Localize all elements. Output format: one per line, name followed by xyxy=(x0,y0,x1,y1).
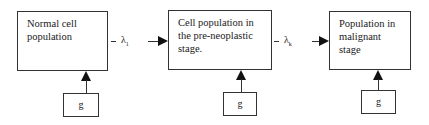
stage-label-line: stage. xyxy=(178,42,271,55)
transition-rate-label: λk xyxy=(284,34,292,47)
input-box-g: g xyxy=(223,92,257,116)
input-line xyxy=(86,80,87,93)
input-box-g: g xyxy=(361,90,396,114)
input-box-g: g xyxy=(63,93,99,117)
transition-dash xyxy=(274,41,279,42)
stage-box-preneoplastic: Cell population in the pre-neoplastic st… xyxy=(168,10,272,70)
transition-dash xyxy=(111,41,116,42)
right-arrow-icon xyxy=(158,36,168,46)
stage-box-normal: Normal cell population xyxy=(17,11,108,71)
lambda-subscript: 1 xyxy=(126,41,129,47)
stage-box-malignant: Population in malignant stage xyxy=(329,11,411,70)
transition-rate-label: λ1 xyxy=(121,34,129,47)
stage-label-line: stage xyxy=(339,43,410,56)
stage-label-line: Normal cell xyxy=(27,17,107,30)
input-line xyxy=(241,79,242,92)
stage-label-line: the pre-neoplastic xyxy=(178,29,271,42)
input-line xyxy=(378,79,379,90)
stage-label-line: Cell population in xyxy=(178,16,271,29)
right-arrow-icon xyxy=(319,36,329,46)
stage-label-line: population xyxy=(27,30,107,43)
stage-label-line: malignant xyxy=(339,30,410,43)
lambda-subscript: k xyxy=(289,41,292,47)
stage-label-line: Population in xyxy=(339,17,410,30)
